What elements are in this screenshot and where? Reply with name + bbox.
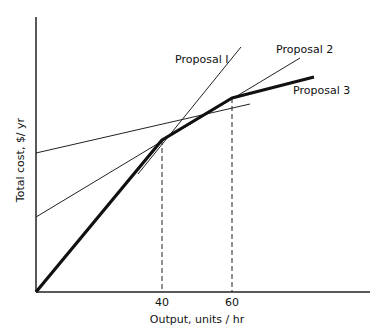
label-proposal-3: Proposal 3: [293, 84, 350, 97]
x-axis-label: Output, units / hr: [150, 313, 245, 326]
tick-60: 60: [225, 296, 239, 309]
cost-chart: Proposal I Proposal 2 Proposal 3 40 60 O…: [0, 0, 385, 335]
tick-40: 40: [155, 296, 169, 309]
line-proposal-1: [138, 47, 241, 174]
label-proposal-2: Proposal 2: [276, 43, 333, 56]
y-axis-label: Total cost, $/ yr: [14, 117, 27, 203]
label-proposal-1: Proposal I: [175, 53, 228, 66]
line-high-intercept: [36, 104, 250, 153]
line-proposal-3-envelope: [36, 77, 314, 292]
